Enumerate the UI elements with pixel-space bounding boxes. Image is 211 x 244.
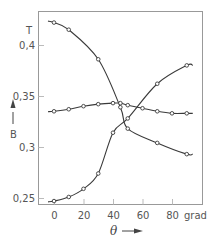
data-point-marker: [52, 110, 56, 114]
data-point-marker: [155, 82, 159, 86]
data-point-marker: [119, 101, 123, 105]
data-point-marker: [52, 21, 56, 25]
data-point-marker: [185, 152, 189, 156]
data-point-marker: [96, 57, 100, 61]
y-tick-label: 0,4: [19, 40, 35, 51]
data-point-marker: [126, 117, 130, 121]
x-unit-label: grad: [184, 210, 207, 221]
data-point-marker: [126, 103, 130, 107]
x-axis-label: θ: [110, 224, 118, 238]
y-tick-label: 0,25: [13, 193, 35, 204]
data-point-marker: [141, 106, 145, 110]
data-point-marker: [96, 102, 100, 106]
data-point-marker: [111, 101, 115, 105]
x-tick-label: 20: [78, 210, 91, 221]
y-axis-label: B: [10, 129, 17, 140]
y-tick-label: 0,35: [13, 91, 35, 102]
x-tick-label: 80: [166, 210, 179, 221]
series-line-increasing: [48, 64, 193, 202]
data-point-marker: [67, 107, 71, 111]
chart: 0,250,30,350,4 020406080 T B grad θ: [0, 0, 211, 244]
data-point-marker: [126, 127, 130, 131]
y-axis: 0,250,30,350,4: [13, 40, 44, 204]
data-point-marker: [155, 141, 159, 145]
x-tick-label: 60: [137, 210, 150, 221]
data-point-marker: [96, 172, 100, 176]
data-point-marker: [111, 131, 115, 135]
x-tick-label: 0: [51, 210, 57, 221]
x-axis-arrow-icon: [122, 229, 143, 234]
data-point-marker: [155, 110, 159, 114]
data-point-marker: [185, 112, 189, 116]
data-point-marker: [170, 112, 174, 116]
data-point-marker: [82, 104, 86, 108]
data-point-marker: [67, 195, 71, 199]
series-line-decreasing: [48, 21, 193, 155]
y-unit-label: T: [25, 25, 33, 36]
data-point-marker: [82, 187, 86, 191]
series-group: [48, 21, 193, 203]
x-axis: 020406080: [51, 199, 179, 221]
x-tick-label: 40: [107, 210, 120, 221]
y-axis-arrow-icon: [11, 99, 16, 124]
data-point-marker: [52, 199, 56, 203]
data-point-marker: [119, 105, 123, 109]
data-point-marker: [67, 28, 71, 32]
y-tick-label: 0,3: [19, 142, 35, 153]
data-point-marker: [185, 64, 189, 68]
